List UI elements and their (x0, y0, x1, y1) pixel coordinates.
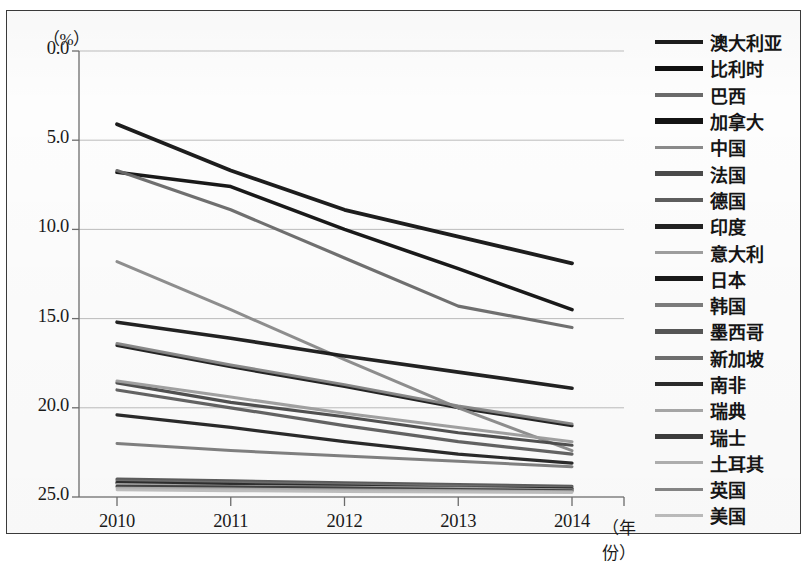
legend-item-label: 南非 (710, 371, 746, 397)
legend-item-label: 意大利 (710, 240, 764, 266)
legend-item-label: 日本 (710, 266, 746, 292)
line-chart-svg (7, 11, 647, 554)
legend-color-swatch (655, 198, 703, 202)
chart-frame: （%） 25.020.015.010.05.00.0 2010201120122… (6, 10, 801, 534)
chart-legend: 澳大利亚比利时巴西加拿大中国法国德国印度意大利日本韩国墨西哥新加坡南非瑞典瑞士土… (655, 29, 807, 529)
legend-item-label: 英国 (710, 476, 746, 502)
legend-item[interactable]: 巴西 (655, 82, 807, 108)
legend-item-label: 法国 (710, 161, 746, 187)
legend-item-label: 德国 (710, 187, 746, 213)
legend-color-swatch (655, 276, 703, 281)
legend-color-swatch (655, 356, 703, 360)
legend-item-label: 韩国 (710, 292, 746, 318)
legend-color-swatch (655, 303, 703, 307)
legend-item[interactable]: 德国 (655, 187, 807, 213)
y-tick-label: 15.0 (7, 306, 69, 327)
legend-color-swatch (655, 146, 703, 150)
x-tick-label: 2011 (183, 511, 279, 532)
legend-item[interactable]: 英国 (655, 476, 807, 502)
legend-item-label: 美国 (710, 502, 746, 528)
legend-item[interactable]: 南非 (655, 371, 807, 397)
x-axis-name-label: （年份） (602, 514, 647, 564)
legend-item-label: 墨西哥 (710, 318, 764, 344)
legend-color-swatch (655, 93, 703, 97)
legend-item-label: 澳大利亚 (710, 29, 782, 55)
legend-item-label: 新加坡 (710, 345, 764, 371)
legend-item[interactable]: 加拿大 (655, 108, 807, 134)
series-line (117, 381, 572, 442)
legend-item[interactable]: 墨西哥 (655, 318, 807, 344)
y-tick-label: 20.0 (7, 395, 69, 416)
legend-color-swatch (655, 461, 703, 464)
legend-item-label: 瑞士 (710, 424, 746, 450)
legend-item[interactable]: 意大利 (655, 239, 807, 265)
legend-item[interactable]: 法国 (655, 160, 807, 186)
legend-item-label: 比利时 (710, 55, 764, 81)
legend-item-label: 瑞典 (710, 397, 746, 423)
legend-item-label: 加拿大 (710, 108, 764, 134)
legend-color-swatch (655, 329, 703, 333)
legend-color-swatch (655, 66, 703, 71)
legend-item[interactable]: 韩国 (655, 292, 807, 318)
legend-item-label: 中国 (710, 134, 746, 160)
legend-color-swatch (655, 171, 703, 175)
y-tick-label: 0.0 (7, 38, 69, 59)
legend-color-swatch (655, 224, 703, 229)
y-tick-label: 10.0 (7, 216, 69, 237)
legend-color-swatch (655, 118, 703, 123)
legend-item-label: 印度 (710, 213, 746, 239)
legend-item[interactable]: 土耳其 (655, 450, 807, 476)
legend-item[interactable]: 日本 (655, 266, 807, 292)
legend-item[interactable]: 新加坡 (655, 345, 807, 371)
legend-color-swatch (655, 40, 703, 45)
legend-item[interactable]: 印度 (655, 213, 807, 239)
legend-item[interactable]: 澳大利亚 (655, 29, 807, 55)
legend-item-label: 巴西 (710, 82, 746, 108)
legend-item[interactable]: 瑞士 (655, 423, 807, 449)
y-tick-label: 25.0 (7, 484, 69, 505)
legend-color-swatch (655, 434, 703, 438)
legend-item[interactable]: 美国 (655, 502, 807, 528)
x-tick-label: 2013 (410, 511, 506, 532)
legend-color-swatch (655, 251, 703, 254)
legend-color-swatch (655, 514, 703, 517)
y-tick-label: 5.0 (7, 127, 69, 148)
legend-color-swatch (655, 488, 703, 491)
legend-item[interactable]: 中国 (655, 134, 807, 160)
legend-color-swatch (655, 409, 703, 412)
legend-item[interactable]: 比利时 (655, 55, 807, 81)
legend-item[interactable]: 瑞典 (655, 397, 807, 423)
legend-color-swatch (655, 382, 703, 387)
x-tick-label: 2012 (297, 511, 393, 532)
x-tick-label: 2010 (69, 511, 165, 532)
plot-area: （%） 25.020.015.010.05.00.0 2010201120122… (7, 11, 647, 554)
legend-item-label: 土耳其 (710, 450, 764, 476)
